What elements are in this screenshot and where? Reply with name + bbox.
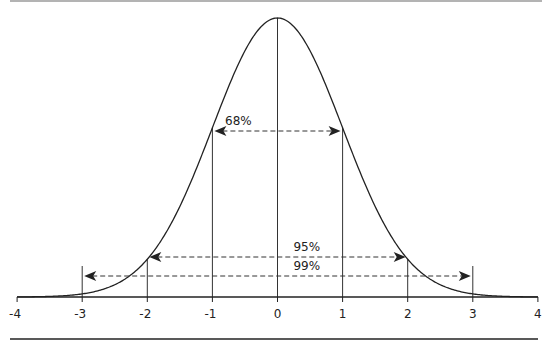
- x-tick-label: 0: [274, 307, 282, 321]
- interval-label: 95%: [293, 240, 320, 254]
- x-tick-label: 4: [534, 307, 542, 321]
- arrowhead-right-icon: [394, 252, 406, 262]
- interval-label: 99%: [293, 259, 320, 273]
- x-tick-label: 1: [339, 307, 347, 321]
- x-tick-label: -4: [9, 307, 21, 321]
- sigma-lines: [82, 18, 473, 297]
- x-tick-label: -3: [74, 307, 86, 321]
- x-axis-ticks: -4-3-2-101234: [9, 297, 542, 321]
- normal-distribution-chart: -4-3-2-101234 68%95%99%: [0, 0, 553, 347]
- interval-label: 68%: [225, 114, 252, 128]
- x-tick-label: 2: [404, 307, 412, 321]
- x-tick-label: 3: [469, 307, 477, 321]
- x-tick-label: -1: [204, 307, 216, 321]
- x-tick-label: -2: [139, 307, 151, 321]
